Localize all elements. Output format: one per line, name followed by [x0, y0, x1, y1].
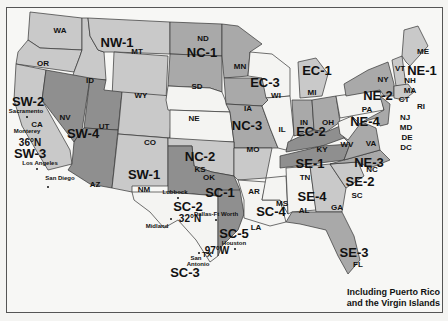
- state-label-ms: MS: [276, 200, 288, 208]
- state-label-al: AL: [299, 207, 310, 215]
- state-label-or: OR: [37, 60, 49, 68]
- region-se-3: SE-3: [340, 246, 369, 259]
- region-ne-4: NE-4: [350, 115, 380, 128]
- state-label-vt: VT: [395, 65, 405, 73]
- state-label-ky: KY: [316, 146, 327, 154]
- state-label-wa: WA: [54, 27, 67, 35]
- city-los-angeles: Los Angeles: [22, 160, 57, 166]
- state-label-mi: MI: [308, 89, 317, 97]
- state-label-ct: CT: [399, 96, 410, 104]
- state-label-ia: IA: [244, 105, 252, 113]
- city-dot-los-angeles: [36, 168, 38, 170]
- state-label-co: CO: [144, 139, 156, 147]
- state-label-ga: GA: [331, 204, 343, 212]
- coord-32n: 32°N: [179, 214, 201, 224]
- state-label-tn: TN: [300, 174, 311, 182]
- region-sw-2: SW-2: [12, 95, 44, 108]
- state-label-id: ID: [86, 77, 94, 85]
- city-dot-sacramento: [26, 116, 28, 118]
- city-dot-dallas: [215, 219, 217, 221]
- state-label-md: MD: [400, 124, 412, 132]
- city-dot-houston: [234, 248, 236, 250]
- state-label-oh: OH: [322, 119, 334, 127]
- city-lubbock: Lubbock: [163, 189, 188, 195]
- state-label-nh: NH: [404, 77, 416, 85]
- state-label-az: AZ: [90, 181, 101, 189]
- region-se-1: SE-1: [296, 157, 325, 170]
- region-ne-2: NE-2: [363, 89, 393, 102]
- state-label-wy: WY: [135, 92, 148, 100]
- region-nc-1: NC-1: [187, 46, 217, 59]
- state-label-ne: NE: [188, 115, 199, 123]
- region-sc-3: SC-3: [170, 266, 200, 279]
- city-monterey: Monterey: [14, 128, 41, 134]
- state-me: [402, 26, 428, 66]
- state-label-nd: ND: [197, 35, 209, 43]
- state-label-me: ME: [417, 48, 429, 56]
- city-dot-san-diego: [47, 186, 49, 188]
- region-ec-1: EC-1: [302, 64, 332, 77]
- region-nw-1: NW-1: [101, 36, 134, 49]
- state-label-ny: NY: [377, 76, 388, 84]
- region-ne-1: NE-1: [407, 64, 437, 77]
- state-label-dc: DC: [400, 144, 412, 152]
- coord-97w: 97°W: [205, 246, 230, 256]
- region-se-4: SE-4: [298, 190, 327, 203]
- note-line-2: and the Virgin Islands: [347, 298, 440, 309]
- state-label-wv: WV: [341, 141, 354, 149]
- state-label-nc: NC: [366, 166, 378, 174]
- state-label-va: VA: [366, 140, 377, 148]
- city-sacramento: Sacramento: [9, 108, 43, 114]
- state-fl: [286, 212, 360, 274]
- state-label-mn: MN: [234, 63, 246, 71]
- state-label-nj: NJ: [400, 114, 410, 122]
- state-label-mt: MT: [131, 48, 143, 56]
- territories-note: Including Puerto Rico and the Virgin Isl…: [347, 287, 440, 309]
- city-san-antonio-2: Antonio: [187, 261, 210, 267]
- note-line-1: Including Puerto Rico: [347, 287, 440, 298]
- region-sc-1: SC-1: [205, 186, 235, 199]
- state-label-ar: AR: [248, 188, 260, 196]
- state-label-sd: SD: [191, 83, 202, 91]
- region-nc-2: NC-2: [185, 150, 215, 163]
- region-sw-4: SW-4: [67, 127, 99, 140]
- state-label-de: DE: [401, 134, 412, 142]
- state-label-pa: PA: [362, 106, 373, 114]
- region-se-2: SE-2: [346, 175, 375, 188]
- state-nm: [112, 134, 168, 192]
- state-label-sc: SC: [351, 192, 362, 200]
- region-sc-5: SC-5: [219, 227, 249, 240]
- state-label-ok: OK: [203, 174, 215, 182]
- city-dot-san-antonio: [198, 252, 200, 254]
- state-label-mo: MO: [247, 146, 260, 154]
- state-label-ri: RI: [417, 103, 425, 111]
- region-sw-3: SW-3: [14, 147, 46, 160]
- region-nc-3: NC-3: [232, 119, 262, 132]
- region-ec-3: EC-3: [250, 76, 280, 89]
- state-label-fl: FL: [353, 261, 363, 269]
- state-label-la: LA: [251, 224, 262, 232]
- state-label-nm: NM: [138, 186, 150, 194]
- city-midland: Midland: [146, 223, 169, 229]
- state-label-il: IL: [278, 126, 285, 134]
- city-dot-lubbock: [177, 197, 179, 199]
- coord-36n: 36°N: [19, 138, 41, 148]
- state-label-wi: WI: [271, 92, 281, 100]
- state-label-in: IN: [300, 119, 308, 127]
- city-san-diego: San Diego: [45, 175, 74, 181]
- state-label-nv: NV: [59, 114, 70, 122]
- region-sw-1: SW-1: [128, 168, 160, 181]
- state-label-ma: MA: [404, 87, 416, 95]
- state-ks: [170, 110, 234, 142]
- coord-dot-32n: [170, 218, 172, 220]
- state-label-ut: UT: [99, 123, 110, 131]
